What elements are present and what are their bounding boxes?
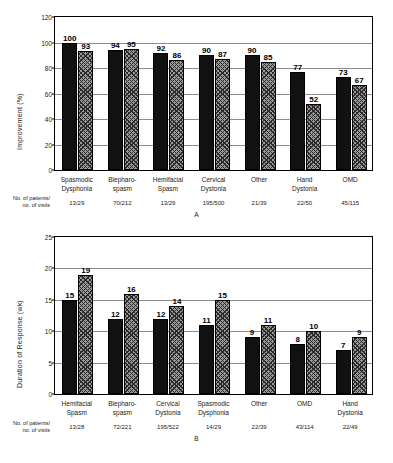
- bar-value-label: 90: [202, 46, 211, 55]
- bar-value-label: 12: [111, 310, 120, 319]
- x-axis-category-label: Other: [236, 400, 282, 409]
- patient-visit-count: 22/39: [236, 424, 282, 430]
- patient-visit-count: 70/212: [100, 200, 146, 206]
- bar-hatched: 19: [78, 275, 93, 394]
- counts-row-label-b: No. of patients/ no. of visits: [2, 420, 50, 434]
- bar-value-label: 15: [218, 291, 227, 300]
- bar-black: 77: [290, 72, 305, 170]
- x-axis-category-label: Hemifacial Spasm: [145, 176, 191, 193]
- patient-visit-count: 14/29: [191, 424, 237, 430]
- bar-hatched: 9: [352, 337, 367, 394]
- x-axis-category-label: Blepharo- spasm: [100, 400, 146, 417]
- plot-area-a: 020406080100120 100939495928690879085775…: [54, 16, 373, 171]
- bar-value-label: 67: [355, 76, 364, 85]
- patient-visit-count: 22/50: [282, 200, 328, 206]
- bar-hatched: 16: [124, 294, 139, 394]
- bar-hatched: 14: [169, 306, 184, 394]
- bar-value-label: 11: [264, 316, 272, 325]
- patient-visit-count: 195/500: [191, 200, 237, 206]
- patient-visit-count: 21/39: [236, 200, 282, 206]
- patient-visit-count: 13/28: [54, 424, 100, 430]
- bar-black: 73: [336, 77, 351, 170]
- bar-value-label: 100: [63, 34, 76, 43]
- bar-value-label: 90: [248, 46, 257, 55]
- bar-value-label: 16: [127, 285, 136, 294]
- x-axis-category-label: Other: [236, 176, 282, 185]
- bar-hatched: 87: [215, 59, 230, 170]
- bar-value-label: 87: [218, 50, 227, 59]
- bar-hatched: 95: [124, 49, 139, 170]
- bar-group-container-b: 151912161214111591181079: [55, 237, 372, 394]
- patient-visit-count: 13/29: [54, 200, 100, 206]
- bar-black: 90: [199, 55, 214, 170]
- panel-a: Improvement (%) 020406080100120 10093949…: [0, 0, 393, 228]
- bar-value-label: 10: [309, 322, 318, 331]
- bar-black: 90: [245, 55, 260, 170]
- x-axis-category-label: Blepharo- spasm: [100, 176, 146, 193]
- bar-group-container-a: 10093949592869087908577527367: [55, 17, 372, 170]
- bar-value-label: 7: [341, 341, 345, 350]
- bar-value-label: 19: [81, 266, 90, 275]
- panel-letter-a: A: [0, 211, 393, 218]
- bar-value-label: 11: [202, 316, 210, 325]
- plot-area-b: 0510152025 151912161214111591181079: [54, 236, 373, 395]
- bar-black: 12: [108, 319, 123, 394]
- bar-value-label: 73: [339, 68, 348, 77]
- bar-black: 100: [62, 43, 77, 171]
- bar-black: 94: [108, 50, 123, 170]
- bar-black: 7: [336, 350, 351, 394]
- bar-value-label: 9: [357, 328, 361, 337]
- x-axis-category-label: Hemifacial Spasm: [54, 400, 100, 417]
- x-axis-category-label: Spasmodic Dysphonia: [54, 176, 100, 193]
- counts-row-label-a: No. of patients/ no. of visits: [2, 195, 50, 209]
- x-axis-category-label: OMD: [327, 176, 373, 185]
- x-axis-category-label: Hand Dystonia: [282, 176, 328, 193]
- patient-visit-count: 13/29: [145, 200, 191, 206]
- x-axis-category-label: Cervical Dystonia: [145, 400, 191, 417]
- bar-hatched: 85: [261, 62, 276, 170]
- bar-value-label: 77: [293, 63, 302, 72]
- figure: Improvement (%) 020406080100120 10093949…: [0, 0, 393, 463]
- patient-visit-count: 195/522: [145, 424, 191, 430]
- bar-black: 15: [62, 300, 77, 394]
- bar-hatched: 52: [306, 104, 321, 170]
- bar-value-label: 85: [264, 53, 273, 62]
- bar-value-label: 52: [309, 95, 318, 104]
- y-axis-title-a: Improvement (%): [16, 93, 23, 150]
- bar-value-label: 8: [295, 335, 299, 344]
- x-axis-category-label: Spasmodic Dysphonia: [191, 400, 237, 417]
- bar-value-label: 15: [65, 291, 74, 300]
- bar-value-label: 86: [172, 51, 181, 60]
- x-axis-category-label: Hand Dystonia: [327, 400, 373, 417]
- x-axis-category-label: OMD: [282, 400, 328, 409]
- panel-b: Duration of Response (wk) 0510152025 151…: [0, 228, 393, 463]
- y-axis-title-b: Duration of Response (wk): [16, 300, 23, 388]
- bar-value-label: 95: [127, 40, 136, 49]
- patient-visit-count: 43/114: [282, 424, 328, 430]
- bar-value-label: 9: [250, 328, 254, 337]
- bar-black: 11: [199, 325, 214, 394]
- bar-black: 12: [153, 319, 168, 394]
- bar-black: 9: [245, 337, 260, 394]
- bar-hatched: 15: [215, 300, 230, 394]
- x-axis-category-label: Cervical Dystonia: [191, 176, 237, 193]
- patient-visit-count: 22/49: [327, 424, 373, 430]
- bar-hatched: 67: [352, 85, 367, 170]
- bar-value-label: 93: [81, 42, 90, 51]
- bar-value-label: 94: [111, 41, 120, 50]
- patient-visit-count: 45/115: [327, 200, 373, 206]
- bar-black: 8: [290, 344, 305, 394]
- patient-visit-count: 72/221: [100, 424, 146, 430]
- bar-hatched: 86: [169, 60, 184, 170]
- panel-letter-b: B: [0, 435, 393, 442]
- bar-value-label: 14: [172, 297, 181, 306]
- bar-hatched: 11: [261, 325, 276, 394]
- bar-value-label: 92: [156, 44, 165, 53]
- bar-value-label: 12: [156, 310, 165, 319]
- bar-black: 92: [153, 53, 168, 170]
- bar-hatched: 93: [78, 51, 93, 170]
- bar-hatched: 10: [306, 331, 321, 394]
